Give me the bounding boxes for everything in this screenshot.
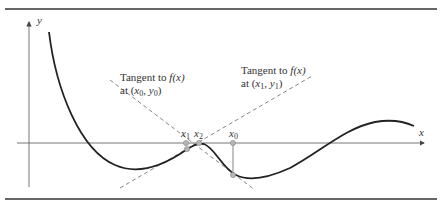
label-x0: x0 bbox=[228, 127, 238, 141]
label-x2: x2 bbox=[193, 127, 203, 141]
point-x0-axis bbox=[230, 140, 235, 145]
annotation-tangent-x0: Tangent to f(x) at (x0, y0) bbox=[120, 71, 185, 98]
function-curve bbox=[49, 32, 414, 179]
svg-text:Tangent to f(x): Tangent to f(x) bbox=[241, 64, 306, 77]
point-x1-curve bbox=[184, 146, 189, 151]
annotation-tangent-x1: Tangent to f(x) at (x1, y1) bbox=[241, 64, 306, 91]
newton-method-diagram: y x x1 x2 x0 Tangent to f(x) at (x0, y0)… bbox=[0, 0, 442, 206]
point-x2-axis bbox=[196, 140, 201, 145]
svg-text:at (x1, y1): at (x1, y1) bbox=[241, 77, 283, 91]
svg-text:Tangent to f(x): Tangent to f(x) bbox=[120, 71, 185, 84]
label-x1: x1 bbox=[180, 127, 190, 141]
x-axis-label: x bbox=[418, 126, 424, 138]
point-x0-curve bbox=[230, 172, 235, 177]
y-axis-label: y bbox=[36, 14, 42, 26]
svg-text:at (x0, y0): at (x0, y0) bbox=[120, 84, 162, 98]
point-x1-axis bbox=[183, 140, 188, 145]
